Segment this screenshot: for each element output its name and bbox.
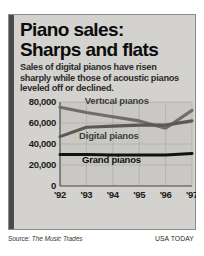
x-tick-label: '94 [107,189,120,200]
series-label: Vertical pianos [85,98,149,106]
chart-svg: 020,00040,00060,00080,000 Vertical piano… [20,98,196,206]
x-tick-label: '93 [80,189,92,200]
usa-today-logo: USA TODAY [155,235,196,242]
series-label: Grand pianos [82,154,141,165]
y-tick-label: 20,000 [29,159,56,170]
source-name: The Music Trades [32,235,83,242]
deck-text: Sales of digital pianos have risen sharp… [20,62,189,94]
x-tick-label: '97 [186,189,196,200]
page-title: Piano sales: Sharps and flats [20,20,189,59]
graphic-card: Piano sales: Sharps and flats Sales of d… [8,14,196,230]
series-label: Digital pianos [79,130,138,141]
x-tick-label: '96 [160,189,172,200]
x-axis-tick-labels: '92'93'94'95'96'97 [54,189,196,200]
y-axis-tick-labels: 020,00040,00060,00080,000 [29,98,56,191]
infographic-page: Piano sales: Sharps and flats Sales of d… [0,0,204,256]
line-chart: 020,00040,00060,00080,000 Vertical piano… [20,98,196,206]
graphic-card-inner: Piano sales: Sharps and flats Sales of d… [14,15,195,229]
headline-line-2: Sharps and flats [20,40,189,60]
y-tick-label: 60,000 [29,117,56,128]
x-tick-label: '92 [54,189,66,200]
x-tick-label: '95 [133,189,146,200]
y-tick-label: 80,000 [29,98,56,107]
chart-footer: Source: The Music Trades USA TODAY [8,232,196,244]
headline-line-1: Piano sales: [20,19,124,40]
source-credit: Source: The Music Trades [8,235,82,242]
y-tick-label: 40,000 [29,138,56,149]
source-label: Source: [8,235,32,242]
